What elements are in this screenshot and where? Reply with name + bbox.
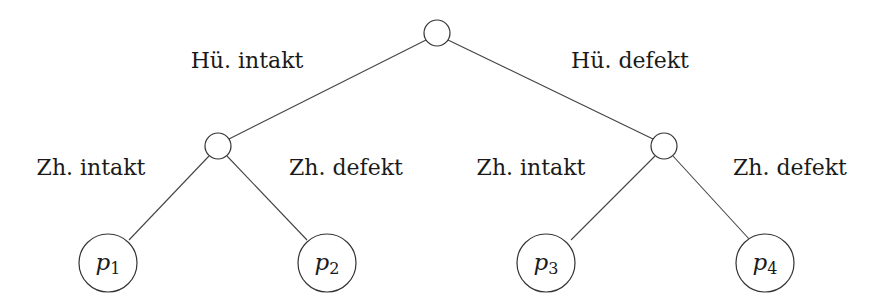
- label-zh-defekt-right: Zh. defekt: [733, 155, 847, 180]
- label-zh-defekt-left: Zh. defekt: [289, 155, 403, 180]
- label-hu-intakt: Hü. intakt: [191, 48, 304, 73]
- root-node: [424, 20, 450, 46]
- node-hu-defekt: [651, 133, 677, 159]
- leaf-p4: p4: [736, 234, 794, 292]
- leaf-p3: p3: [517, 234, 575, 292]
- label-hu-defekt: Hü. defekt: [571, 48, 689, 73]
- probability-tree: p1 p2 p3 p4 Hü. intakt Hü. defekt Zh. in…: [0, 0, 876, 308]
- leaf-p1: p1: [79, 234, 137, 292]
- node-hu-intakt: [205, 133, 231, 159]
- label-zh-intakt-left: Zh. intakt: [37, 155, 146, 180]
- label-zh-intakt-right: Zh. intakt: [477, 155, 586, 180]
- leaf-p2: p2: [298, 234, 356, 292]
